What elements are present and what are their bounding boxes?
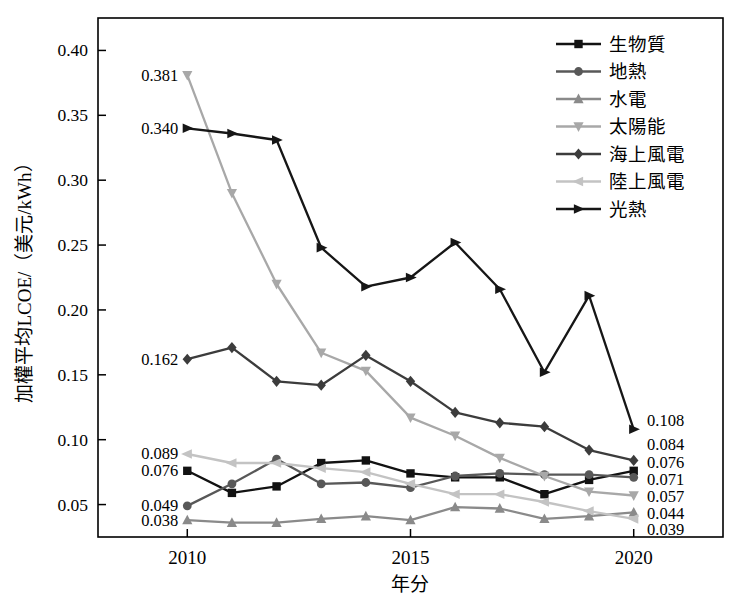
marker-geothermal-2011 <box>228 479 237 488</box>
legend-item-solar-pv: 太陽能 <box>556 117 666 137</box>
legend-item-offshore-wind: 海上風電 <box>556 145 685 165</box>
y-tick-label: 0.35 <box>57 105 88 125</box>
legend-label-offshore-wind: 海上風電 <box>609 145 685 165</box>
y-tick-label: 0.05 <box>57 495 88 515</box>
legend-label-geothermal: 地熱 <box>609 62 647 82</box>
legend-marker-biomass <box>574 40 582 48</box>
legend-label-hydro: 水電 <box>609 90 647 110</box>
marker-csp-2011 <box>227 129 238 139</box>
legend-marker-geothermal <box>574 67 583 76</box>
legend-item-biomass: 生物質 <box>556 35 666 55</box>
marker-geothermal-2013 <box>317 479 326 488</box>
marker-offshore-wind-2013 <box>317 380 326 391</box>
marker-csp-2014 <box>361 282 372 292</box>
marker-biomass-2012 <box>272 482 280 490</box>
legend-marker-offshore-wind <box>574 148 583 159</box>
marker-onshore-wind-2011 <box>226 458 237 468</box>
marker-biomass-2014 <box>362 456 370 464</box>
legend-label-onshore-wind: 陸上風電 <box>609 172 685 192</box>
end-value-onshore-wind: 0.039 <box>647 520 684 539</box>
marker-csp-2020 <box>629 425 640 435</box>
y-tick-label: 0.25 <box>57 235 88 255</box>
marker-offshore-wind-2019 <box>584 444 593 455</box>
marker-geothermal-2014 <box>361 478 370 487</box>
marker-biomass-2010 <box>183 467 191 475</box>
legend-marker-csp <box>574 204 585 214</box>
marker-geothermal-2010 <box>183 501 192 510</box>
marker-csp-2010 <box>183 123 194 133</box>
marker-geothermal-2020 <box>629 473 638 482</box>
legend-marker-onshore-wind <box>572 177 583 187</box>
series <box>181 71 640 527</box>
y-tick-label: 0.15 <box>57 365 88 385</box>
marker-solar-pv-2011 <box>227 189 237 199</box>
y-tick-label: 0.30 <box>57 170 88 190</box>
legend-item-geothermal: 地熱 <box>556 62 647 82</box>
start-value-hydro: 0.038 <box>141 511 178 530</box>
legend: 生物質地熱水電太陽能海上風電陸上風電光熱 <box>556 35 685 220</box>
marker-offshore-wind-2020 <box>629 455 638 466</box>
y-tick-label: 0.20 <box>57 300 88 320</box>
lcoe-figure: 年分 加權平均LCOE/（美元/kWh） 0.050.100.150.200.2… <box>0 0 747 606</box>
marker-onshore-wind-2017 <box>494 489 505 499</box>
marker-offshore-wind-2014 <box>361 350 370 361</box>
marker-geothermal-2019 <box>585 470 594 479</box>
marker-onshore-wind-2010 <box>181 449 192 459</box>
start-value-csp: 0.340 <box>141 119 178 138</box>
start-value-biomass: 0.076 <box>141 461 178 480</box>
y-tick-label: 0.10 <box>57 430 88 450</box>
start-value-onshore-wind: 0.089 <box>141 444 178 463</box>
legend-label-biomass: 生物質 <box>609 35 666 55</box>
lcoe-line-chart: 年分 加權平均LCOE/（美元/kWh） 0.050.100.150.200.2… <box>0 0 747 606</box>
legend-label-csp: 光熱 <box>609 200 647 220</box>
legend-item-csp: 光熱 <box>556 200 647 220</box>
marker-offshore-wind-2018 <box>540 421 549 432</box>
end-value-offshore-wind: 0.084 <box>647 435 684 454</box>
y-tick-label: 0.40 <box>57 40 88 60</box>
marker-onshore-wind-2018 <box>538 497 549 507</box>
marker-onshore-wind-2016 <box>449 489 460 499</box>
marker-biomass-2011 <box>228 489 236 497</box>
series-line-offshore-wind <box>187 348 633 461</box>
end-value-csp: 0.108 <box>647 411 684 430</box>
marker-solar-pv-2010 <box>182 71 192 81</box>
legend-item-hydro: 水電 <box>556 90 647 110</box>
legend-item-onshore-wind: 陸上風電 <box>556 172 685 192</box>
x-axis-label: 年分 <box>391 574 429 595</box>
marker-offshore-wind-2010 <box>183 354 192 365</box>
marker-onshore-wind-2014 <box>360 467 371 477</box>
start-value-offshore-wind: 0.162 <box>141 350 178 369</box>
legend-label-solar-pv: 太陽能 <box>609 117 666 137</box>
x-tick-label: 2015 <box>392 547 430 568</box>
marker-geothermal-2016 <box>451 472 460 481</box>
marker-offshore-wind-2016 <box>450 407 459 418</box>
marker-biomass-2018 <box>540 490 548 498</box>
series-line-solar-pv <box>187 75 633 495</box>
marker-offshore-wind-2015 <box>406 376 415 387</box>
x-tick-label: 2020 <box>615 547 653 568</box>
marker-biomass-2015 <box>406 469 414 477</box>
x-tick-label: 2010 <box>168 547 206 568</box>
marker-geothermal-2017 <box>495 469 504 478</box>
value-annotations: 0.0760.0490.0380.3810.1620.0890.3400.108… <box>141 66 684 539</box>
y-axis-label: 加權平均LCOE/（美元/kWh） <box>14 153 35 402</box>
start-value-solar-pv: 0.381 <box>141 66 178 85</box>
marker-offshore-wind-2017 <box>495 417 504 428</box>
